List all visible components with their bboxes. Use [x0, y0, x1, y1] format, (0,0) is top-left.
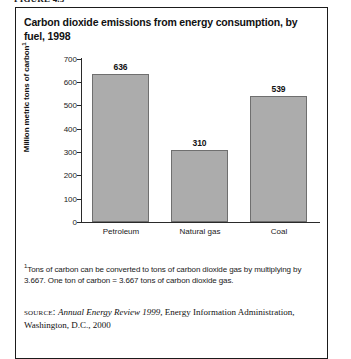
source-publication-title: Annual Energy Review 1999 [58, 307, 160, 317]
y-axis-title-text: Million metric tons of carbon [22, 46, 31, 152]
x-category-label-natural-gas: Natural gas [165, 227, 235, 236]
footnote: 1Tons of carbon can be converted to tons… [24, 261, 314, 287]
bar-chart-plot: Million metric tons of carbon1 700 600 5… [0, 0, 351, 260]
bar-coal[interactable] [250, 96, 307, 222]
bar-value-petroleum: 636 [92, 62, 149, 72]
bar-natural-gas[interactable] [171, 150, 228, 222]
x-category-label-coal: Coal [244, 227, 314, 236]
x-axis-line [81, 222, 320, 223]
y-tick-label-0: 0 [51, 218, 77, 227]
y-axis-footnote-marker: 1 [21, 42, 27, 45]
bar-value-coal: 539 [250, 84, 307, 94]
source-label: source: [24, 307, 56, 317]
bar-petroleum[interactable] [92, 74, 149, 222]
bar-value-natural-gas: 310 [171, 138, 228, 148]
source-line: source: Annual Energy Review 1999, Energ… [24, 306, 314, 331]
footnote-text: Tons of carbon can be converted to tons … [24, 265, 301, 286]
x-category-label-petroleum: Petroleum [86, 227, 156, 236]
y-tick-label-200: 200 [51, 171, 77, 180]
y-axis-line [81, 58, 82, 223]
y-tick-label-500: 500 [51, 101, 77, 110]
y-axis-title: Million metric tons of carbon1 [21, 27, 32, 167]
y-tick-label-600: 600 [51, 78, 77, 87]
y-tick-label-100: 100 [51, 195, 77, 204]
y-tick-label-300: 300 [51, 148, 77, 157]
y-tick-label-700: 700 [51, 55, 77, 64]
y-tick-label-400: 400 [51, 125, 77, 134]
